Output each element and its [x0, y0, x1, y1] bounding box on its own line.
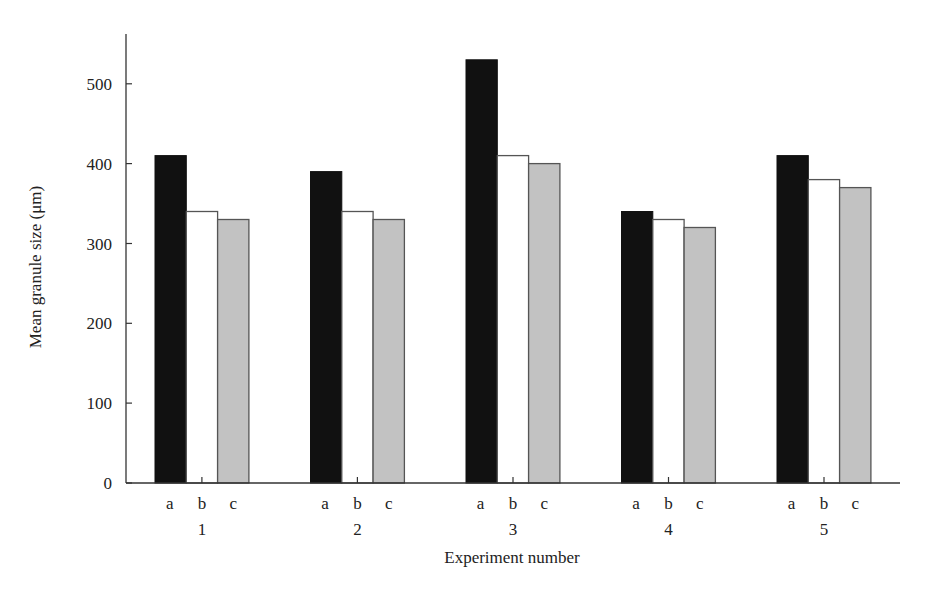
bar-4c [684, 228, 715, 484]
subcategory-label: a [788, 494, 796, 513]
bar-5c [840, 188, 871, 483]
bar-1c [218, 220, 249, 484]
bar-1a [155, 156, 186, 483]
y-tick-label: 100 [87, 394, 113, 413]
bar-group-experiment-4 [622, 212, 716, 484]
subcategory-label: c [541, 494, 549, 513]
subcategory-label: a [166, 494, 174, 513]
category-label: 2 [353, 520, 362, 539]
y-tick-label: 500 [87, 75, 113, 94]
category-label: 1 [198, 520, 207, 539]
y-tick-label: 400 [87, 155, 113, 174]
bars-layer [155, 60, 871, 483]
bar-3c [529, 164, 560, 483]
subcategory-label: a [632, 494, 640, 513]
subcategory-label: a [477, 494, 485, 513]
bar-chart: 0100200300400500 abc1abc2abc3abc4abc5 Ex… [0, 0, 938, 599]
y-ticks: 0100200300400500 [87, 75, 133, 493]
subcategory-label: c [230, 494, 238, 513]
y-tick-label: 200 [87, 314, 113, 333]
category-label: 5 [820, 520, 829, 539]
bar-group-experiment-2 [311, 172, 405, 483]
category-label: 4 [664, 520, 673, 539]
subcategory-label: c [385, 494, 393, 513]
category-label: 3 [509, 520, 518, 539]
y-axis-title: Mean granule size (μm) [26, 186, 45, 349]
bar-4a [622, 212, 653, 484]
bar-4b [653, 220, 684, 484]
bar-1b [186, 212, 217, 484]
subcategory-label: b [664, 494, 673, 513]
x-tick-labels: abc1abc2abc3abc4abc5 [166, 494, 860, 539]
subcategory-label: b [353, 494, 362, 513]
bar-3a [466, 60, 497, 483]
subcategory-label: b [198, 494, 207, 513]
y-tick-label: 0 [104, 474, 113, 493]
subcategory-label: c [696, 494, 704, 513]
bar-2c [373, 220, 404, 484]
subcategory-label: b [509, 494, 518, 513]
bar-group-experiment-5 [777, 156, 871, 483]
bar-5a [777, 156, 808, 483]
subcategory-label: a [321, 494, 329, 513]
y-tick-label: 300 [87, 235, 113, 254]
bar-3b [497, 156, 528, 483]
bar-5b [808, 180, 839, 483]
bar-group-experiment-3 [466, 60, 560, 483]
subcategory-label: b [820, 494, 829, 513]
x-axis-title: Experiment number [444, 548, 580, 567]
bar-2b [342, 212, 373, 484]
bar-2a [311, 172, 342, 483]
bar-group-experiment-1 [155, 156, 249, 483]
subcategory-label: c [852, 494, 860, 513]
